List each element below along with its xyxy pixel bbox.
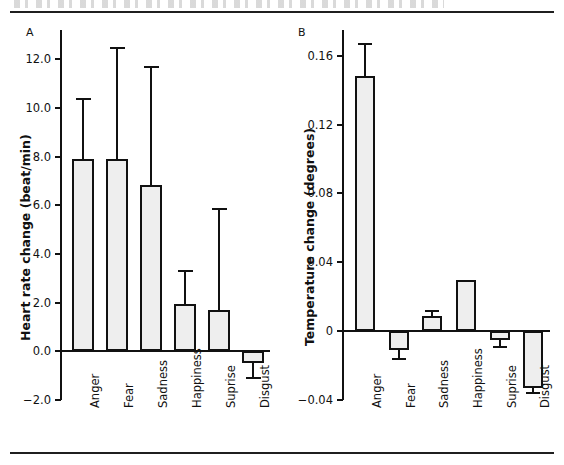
- y-tick-label: 4.0: [33, 247, 51, 261]
- x-category-label: Happiness: [471, 348, 485, 408]
- panel-a: A Heart rate change (beat/min) 12.010.08…: [0, 16, 282, 452]
- y-tick: [337, 192, 343, 194]
- error-bar: [364, 44, 366, 77]
- y-tick: [55, 107, 61, 109]
- y-tick-label: −2.0: [23, 393, 51, 407]
- panel-a-plot-area: 12.010.08.06.04.02.00.0−2.0AngerFearSadn…: [60, 30, 270, 400]
- x-category-label: Happiness: [190, 348, 204, 408]
- error-bar: [82, 99, 84, 159]
- y-tick-label: 2.0: [33, 296, 51, 310]
- rule-bottom: [10, 452, 554, 454]
- bar: [456, 280, 476, 332]
- y-tick: [55, 156, 61, 158]
- bar: [72, 159, 94, 351]
- page-header-artifact: [14, 0, 444, 8]
- y-tick: [55, 399, 61, 401]
- error-bar-cap: [144, 66, 159, 68]
- x-category-label: Sadness: [156, 360, 170, 408]
- y-tick-label: 0.04: [307, 255, 333, 269]
- y-tick-label: 12.0: [25, 52, 51, 66]
- bar: [422, 316, 442, 331]
- error-bar-cap: [358, 43, 372, 45]
- y-tick-label: 6.0: [33, 198, 51, 212]
- y-tick-label: 0: [326, 324, 333, 338]
- error-bar: [218, 209, 220, 310]
- error-bar-cap: [76, 98, 91, 100]
- error-bar: [184, 271, 186, 304]
- y-tick-label: 0.08: [307, 186, 333, 200]
- error-bar: [116, 48, 118, 159]
- rule-top: [10, 11, 554, 13]
- panel-b-letter: B: [298, 26, 306, 39]
- panel-b: B Temperature change (degrees) 0.160.120…: [282, 16, 564, 452]
- bar: [242, 351, 264, 363]
- error-bar-cap: [212, 208, 227, 210]
- x-category-label: Anger: [370, 374, 384, 408]
- x-category-label: Sadness: [437, 360, 451, 408]
- y-tick-label: 0.0: [33, 344, 51, 358]
- y-tick: [337, 55, 343, 57]
- panel-b-y-axis: [342, 30, 344, 400]
- y-tick-label: −0.04: [298, 393, 333, 407]
- x-category-label: Disgust: [258, 365, 272, 408]
- y-tick: [337, 261, 343, 263]
- error-bar-cap: [110, 47, 125, 49]
- panel-a-y-axis: [60, 30, 62, 400]
- y-tick: [337, 124, 343, 126]
- error-bar-cap: [425, 310, 439, 312]
- y-tick-label: 8.0: [33, 150, 51, 164]
- bar: [174, 304, 196, 351]
- x-category-label: Fear: [122, 383, 136, 408]
- bar: [389, 331, 409, 350]
- x-category-label: Suprise: [505, 365, 519, 408]
- error-bar: [150, 67, 152, 185]
- bar: [355, 76, 375, 331]
- error-bar-cap: [178, 270, 193, 272]
- y-tick-label: 0.16: [307, 49, 333, 63]
- figure: A Heart rate change (beat/min) 12.010.08…: [0, 0, 564, 465]
- y-tick-label: 10.0: [25, 101, 51, 115]
- bar: [106, 159, 128, 351]
- y-tick: [55, 302, 61, 304]
- error-bar-cap: [392, 358, 406, 360]
- panel-a-letter: A: [26, 26, 34, 39]
- x-category-label: Anger: [88, 374, 102, 408]
- y-tick: [337, 399, 343, 401]
- bar: [140, 185, 162, 352]
- bar: [490, 331, 510, 340]
- error-bar-cap: [493, 346, 507, 348]
- bar: [208, 310, 230, 351]
- panel-b-y-axis-title: Temperature change (degrees): [302, 128, 317, 346]
- x-category-label: Fear: [404, 383, 418, 408]
- x-category-label: Disgust: [538, 365, 552, 408]
- y-tick: [55, 58, 61, 60]
- y-tick-label: 0.12: [307, 118, 333, 132]
- panel-b-plot-area: 0.160.120.080.040−0.04AngerFearSadnessHa…: [342, 30, 550, 400]
- x-category-label: Suprise: [224, 365, 238, 408]
- panel-a-y-axis-title: Heart rate change (beat/min): [18, 134, 33, 341]
- y-tick: [55, 204, 61, 206]
- y-tick: [55, 253, 61, 255]
- error-bar: [252, 363, 254, 378]
